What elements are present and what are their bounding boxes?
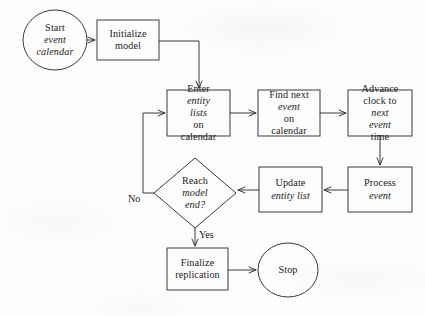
finalize-node-shape: [167, 248, 228, 290]
advance-clock-node-shape: [348, 90, 412, 136]
edge-decision-no-to-enter-lists: [143, 113, 165, 193]
edge-label-no: No: [128, 193, 140, 204]
flowchart-canvas: Start event calendar Initialize model En…: [0, 0, 425, 316]
initialize-node-shape: [97, 20, 159, 60]
update-entity-node-shape: [259, 167, 322, 212]
find-event-node-shape: [258, 90, 320, 136]
decision-node-shape: [154, 158, 236, 228]
start-node-shape: [23, 10, 87, 70]
edge-initialize-to-enter-lists: [159, 41, 199, 88]
enter-lists-node-shape: [167, 90, 230, 136]
process-event-node-shape: [348, 167, 412, 212]
stop-node-shape: [258, 243, 318, 297]
flowchart-graphics: [0, 0, 425, 316]
edge-label-yes: Yes: [199, 229, 214, 240]
